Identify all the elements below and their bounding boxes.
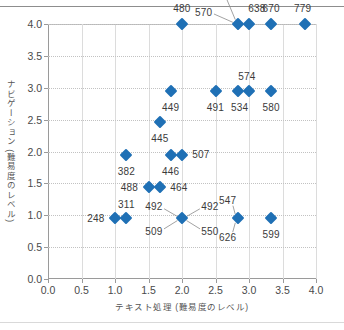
x-tick-label: 2.0 <box>175 284 190 296</box>
data-point-marker[interactable] <box>231 212 244 225</box>
data-point-label: 670 <box>262 3 279 14</box>
x-tick-label: 2.5 <box>208 284 223 296</box>
y-tick-mark <box>44 120 48 121</box>
data-point-marker[interactable] <box>154 115 167 128</box>
x-tick-label: 1.5 <box>141 284 156 296</box>
y-tick-label: 4.0 <box>27 18 42 30</box>
x-tick-label: 4.0 <box>309 284 324 296</box>
x-tick-mark <box>115 279 116 283</box>
data-point-marker[interactable] <box>265 212 278 225</box>
data-point-marker[interactable] <box>120 212 133 225</box>
data-point-label: 580 <box>262 101 279 112</box>
data-point-label: 574 <box>238 70 255 81</box>
x-tick-label: 0.0 <box>41 284 56 296</box>
y-tick-mark <box>44 56 48 57</box>
x-tick-label: 3.5 <box>275 284 290 296</box>
data-point-marker[interactable] <box>243 85 256 98</box>
data-point-marker[interactable] <box>265 85 278 98</box>
leader-line <box>164 221 177 229</box>
leader-line <box>227 0 235 20</box>
data-point-marker[interactable] <box>243 18 256 31</box>
x-tick-label: 0.5 <box>74 284 89 296</box>
data-point-label: 445 <box>151 132 168 143</box>
x-axis-title: テキスト処理 (難易度のレベル) <box>48 300 316 312</box>
data-point-label: 480 <box>173 3 190 14</box>
x-tick-label: 1.0 <box>108 284 123 296</box>
y-tick-label: 0.5 <box>27 241 42 253</box>
data-point-marker[interactable] <box>164 85 177 98</box>
data-point-label: 534 <box>231 101 248 112</box>
data-point-label: 626 <box>219 232 236 243</box>
x-tick-mark <box>316 279 317 283</box>
data-point-label: 449 <box>162 101 179 112</box>
y-axis-title: ナビゲーション (難易度のレベル) <box>3 24 17 279</box>
leader-line <box>233 223 236 232</box>
y-tick-mark <box>44 215 48 216</box>
data-point-marker[interactable] <box>176 18 189 31</box>
x-tick-mark <box>283 279 284 283</box>
data-point-label: 248 <box>87 213 104 224</box>
data-point-label: 488 <box>121 181 138 192</box>
x-tick-mark <box>216 279 217 283</box>
y-tick-label: 2.5 <box>27 114 42 126</box>
bottom-divider-rule <box>0 322 344 323</box>
data-point-marker[interactable] <box>265 18 278 31</box>
data-point-label: 492 <box>201 201 218 212</box>
y-tick-mark <box>44 279 48 280</box>
y-axis-title-text: ナビゲーション (難易度のレベル) <box>4 80 16 223</box>
top-divider-rule <box>0 6 344 7</box>
data-point-label: 550 <box>201 226 218 237</box>
y-tick-mark <box>44 247 48 248</box>
data-point-label: 464 <box>170 181 187 192</box>
y-tick-label: 1.0 <box>27 209 42 221</box>
scatter-chart-figure: ナビゲーション (難易度のレベル) 4805705466386707794494… <box>0 0 344 330</box>
y-tick-mark <box>44 152 48 153</box>
grid-line-vertical <box>316 24 317 279</box>
plot-area: 4805705466386707794494915345745804453824… <box>48 24 316 279</box>
x-tick-mark <box>48 279 49 283</box>
y-tick-label: 3.5 <box>27 50 42 62</box>
grid-line-horizontal <box>48 247 316 248</box>
data-point-label: 492 <box>145 201 162 212</box>
data-point-marker[interactable] <box>154 180 167 193</box>
leader-line <box>214 14 233 22</box>
y-tick-label: 1.5 <box>27 177 42 189</box>
data-point-label: 779 <box>294 3 311 14</box>
y-tick-label: 2.0 <box>27 146 42 158</box>
data-point-label: 311 <box>118 199 135 210</box>
data-point-label: 570 <box>195 7 212 18</box>
data-point-marker[interactable] <box>176 148 189 161</box>
x-tick-mark <box>249 279 250 283</box>
x-tick-mark <box>149 279 150 283</box>
y-tick-mark <box>44 183 48 184</box>
x-tick-label: 3.0 <box>242 284 257 296</box>
y-tick-mark <box>44 24 48 25</box>
leader-line <box>187 221 200 229</box>
data-point-label: 509 <box>145 226 162 237</box>
x-tick-mark <box>182 279 183 283</box>
data-point-label: 507 <box>192 148 209 159</box>
data-point-label: 547 <box>219 195 236 206</box>
grid-line-horizontal <box>48 56 316 57</box>
grid-line-horizontal <box>48 120 316 121</box>
y-tick-label: 0.0 <box>27 273 42 285</box>
x-tick-mark <box>82 279 83 283</box>
data-point-label: 491 <box>207 101 224 112</box>
data-point-marker[interactable] <box>120 148 133 161</box>
data-point-label: 599 <box>262 229 279 240</box>
data-point-marker[interactable] <box>209 85 222 98</box>
data-point-marker[interactable] <box>298 18 311 31</box>
data-point-marker[interactable] <box>176 212 189 225</box>
y-tick-label: 3.0 <box>27 82 42 94</box>
data-point-label: 382 <box>118 165 135 176</box>
y-tick-mark <box>44 88 48 89</box>
data-point-label: 446 <box>162 165 179 176</box>
